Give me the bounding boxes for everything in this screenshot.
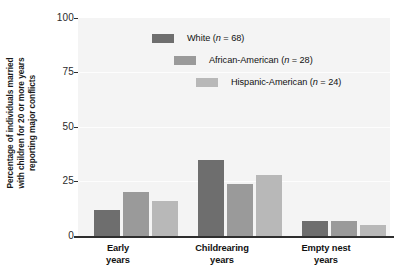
legend-label-african-american-suffix: = 28) <box>289 55 312 65</box>
x-axis-label-early-years-line-2: years <box>80 255 156 267</box>
bar-early-years-african-american <box>123 192 149 236</box>
y-axis-title-line-1: Percentage of individuals married <box>5 57 16 188</box>
y-tick-label-100: 100 <box>44 12 74 23</box>
y-tick-label-75: 75 <box>44 66 74 77</box>
bar-chart-figure: Percentage of individuals married with c… <box>0 0 403 279</box>
x-axis-label-empty-nest-years: Empty nest years <box>288 243 364 266</box>
y-axis-title-line-2: with children for 20 or more years <box>16 57 27 188</box>
legend-label-hispanic-american: Hispanic-American (n = 24) <box>231 77 341 87</box>
y-tick-label-0: 0 <box>44 230 74 241</box>
bar-childrearing-years-white <box>198 160 224 236</box>
bar-childrearing-years-hispanic-american <box>256 175 282 236</box>
legend-label-african-american-prefix: African-American ( <box>209 55 284 65</box>
legend-swatch-african-american <box>174 56 196 65</box>
y-axis-tick-labels: 100 75 50 25 0 <box>42 0 74 279</box>
x-axis-label-childrearing-years: Childrearing years <box>184 243 260 266</box>
bar-childrearing-years-african-american <box>227 184 253 236</box>
x-axis-label-childrearing-years-line-1: Childrearing <box>184 243 260 255</box>
y-axis-title-line-3: reporting major conflicts <box>28 57 39 188</box>
legend-label-white-prefix: White ( <box>187 33 216 43</box>
x-axis-label-early-years-line-1: Early <box>80 243 156 255</box>
legend-swatch-white <box>152 34 174 43</box>
bar-early-years-white <box>94 210 120 236</box>
bar-empty-nest-years-african-american <box>331 221 357 236</box>
legend-item-hispanic-american: Hispanic-American (n = 24) <box>196 74 341 90</box>
bar-early-years-hispanic-american <box>152 201 178 236</box>
x-axis-label-childrearing-years-line-2: years <box>184 255 260 267</box>
x-axis-line <box>74 236 394 238</box>
legend-label-hispanic-american-prefix: Hispanic-American ( <box>231 77 313 87</box>
x-axis-label-early-years: Early years <box>80 243 156 266</box>
bar-empty-nest-years-hispanic-american <box>360 225 386 236</box>
gridline-25 <box>78 181 390 182</box>
legend-item-african-american: African-American (n = 28) <box>174 52 313 68</box>
y-tick-label-50: 50 <box>44 121 74 132</box>
legend-label-white-suffix: = 68) <box>221 33 244 43</box>
legend-swatch-hispanic-american <box>196 78 218 87</box>
bar-empty-nest-years-white <box>302 221 328 236</box>
legend: White (n = 68) African-American (n = 28)… <box>152 30 392 88</box>
legend-label-white: White (n = 68) <box>187 33 244 43</box>
y-axis-title: Percentage of individuals married with c… <box>0 0 44 245</box>
x-axis-label-empty-nest-years-line-1: Empty nest <box>288 243 364 255</box>
legend-label-african-american: African-American (n = 28) <box>209 55 313 65</box>
legend-item-white: White (n = 68) <box>152 30 244 46</box>
x-axis-label-empty-nest-years-line-2: years <box>288 255 364 267</box>
gridline-50 <box>78 127 390 128</box>
legend-label-hispanic-american-suffix: = 24) <box>318 77 341 87</box>
y-tick-label-25: 25 <box>44 175 74 186</box>
